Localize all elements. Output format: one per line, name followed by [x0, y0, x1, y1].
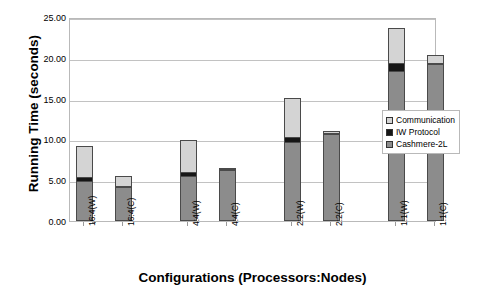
- x-axis-tick-label: 16:4(C): [126, 198, 136, 226]
- y-axis-tick-label: 25.00: [26, 13, 66, 23]
- x-axis-tick-label: 4:4(C): [230, 202, 240, 226]
- legend-swatch-icon: [386, 117, 393, 124]
- y-axis-tick-label: 0.00: [26, 217, 66, 227]
- bar-segment-communication: [428, 56, 443, 65]
- bar-segment-communication: [285, 99, 300, 138]
- x-axis-tick-mark: [122, 222, 123, 226]
- bar-segment-communication: [116, 177, 131, 186]
- x-axis-tick-label: 1:1(W): [399, 201, 409, 227]
- y-axis-tick-label: 20.00: [26, 54, 66, 64]
- x-axis-tick-label: 1:1(C): [438, 202, 448, 226]
- y-axis-tick-label: 15.00: [26, 95, 66, 105]
- x-axis-tick-mark: [226, 222, 227, 226]
- legend-label: Cashmere-2L: [396, 139, 448, 149]
- y-axis-tick-labels: 0.005.0010.0015.0020.0025.00: [26, 18, 66, 222]
- x-axis-tick-label: 2:2(C): [334, 202, 344, 226]
- chart-figure: Running Time (seconds) 0.005.0010.0015.0…: [0, 0, 479, 299]
- plot-area: [69, 18, 436, 222]
- legend-swatch-icon: [386, 129, 393, 136]
- legend-swatch-icon: [386, 141, 393, 148]
- x-axis-tick-mark: [83, 222, 84, 226]
- legend-item[interactable]: Communication: [386, 114, 455, 126]
- x-axis-tick-mark: [291, 222, 292, 226]
- x-axis-tick-labels: 16:4(W)16:4(C)4:4(W)4:4(C)2:2(W)2:2(C)1:…: [69, 222, 436, 268]
- bar-segment-communication: [181, 141, 196, 172]
- legend-label: IW Protocol: [396, 127, 440, 137]
- x-axis-tick-mark: [395, 222, 396, 226]
- legend-item[interactable]: Cashmere-2L: [386, 138, 455, 150]
- bar-segment-communication: [77, 147, 92, 178]
- chart-legend: CommunicationIW ProtocolCashmere-2L: [382, 110, 460, 154]
- bar-segment-communication: [389, 29, 404, 64]
- x-axis-tick-label: 2:2(W): [295, 201, 305, 227]
- legend-item[interactable]: IW Protocol: [386, 126, 455, 138]
- x-axis-tick-label: 4:4(W): [191, 201, 201, 227]
- x-axis-tick-mark: [187, 222, 188, 226]
- x-axis-title: Configurations (Processors:Nodes): [69, 270, 436, 285]
- bars-layer: [70, 19, 435, 221]
- x-axis-tick-label: 16:4(W): [87, 196, 97, 226]
- x-axis-tick-mark: [330, 222, 331, 226]
- y-axis-tick-label: 10.00: [26, 135, 66, 145]
- y-axis-tick-label: 5.00: [26, 176, 66, 186]
- legend-label: Communication: [396, 115, 455, 125]
- x-axis-tick-mark: [434, 222, 435, 226]
- bar-segment-iwprotocol: [389, 64, 404, 72]
